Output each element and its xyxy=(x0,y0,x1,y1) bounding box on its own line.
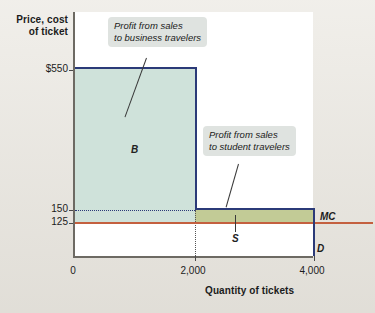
business-profit-callout: Profit from sales to business travelers xyxy=(108,17,207,47)
region-s-label: S xyxy=(232,233,239,244)
y-tick-label-550: $550 xyxy=(18,63,68,74)
guide-dotted-2000 xyxy=(195,210,196,256)
student-callout-line1: Profit from sales xyxy=(209,129,290,141)
business-callout-line1: Profit from sales xyxy=(114,20,201,32)
x-tickmark-4000 xyxy=(314,256,315,261)
business-callout-line2: to business travelers xyxy=(114,32,201,44)
x-tickmark-2000 xyxy=(195,256,196,261)
y-tick-label-125: 125 xyxy=(18,216,68,227)
student-callout-line2: to student travelers xyxy=(209,141,290,153)
mc-curve-label: MC xyxy=(320,211,336,222)
demand-curve-segment-drop-2000 xyxy=(195,67,197,210)
demand-curve-label: D xyxy=(317,243,324,254)
chart-page: Price, cost of ticket $550 150 125 B S xyxy=(0,0,375,313)
demand-curve-segment-drop-4000 xyxy=(313,208,315,256)
marginal-cost-curve xyxy=(75,222,373,224)
x-tick-label-0: 0 xyxy=(53,265,93,276)
y-axis-title-line1: Price, cost xyxy=(6,14,68,26)
y-axis-title-line2: of ticket xyxy=(6,26,68,38)
guide-dotted-150 xyxy=(75,210,195,211)
x-axis-title: Quantity of tickets xyxy=(205,285,365,297)
y-axis-title: Price, cost of ticket xyxy=(6,14,68,38)
demand-curve-segment-mid xyxy=(195,208,315,210)
student-profit-callout: Profit from sales to student travelers xyxy=(203,126,296,156)
student-callout-leader-short xyxy=(235,215,236,232)
demand-curve-segment-top xyxy=(75,67,197,69)
x-tick-label-2000: 2,000 xyxy=(170,265,216,276)
region-b-label: B xyxy=(131,144,138,155)
x-tick-label-4000: 4,000 xyxy=(289,265,335,276)
y-tick-label-150: 150 xyxy=(18,203,68,214)
